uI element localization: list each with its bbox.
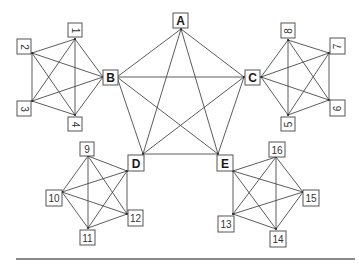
edge-6-5 xyxy=(288,100,329,115)
edge-10-11 xyxy=(62,192,88,228)
edge-9-12 xyxy=(88,156,127,214)
junction-dot xyxy=(232,213,234,215)
edge-11-D xyxy=(88,171,127,228)
node-9: 9 xyxy=(80,142,94,156)
node-5: 5 xyxy=(281,117,295,131)
edge-2-B xyxy=(32,53,103,77)
edge-5-C xyxy=(261,77,288,115)
edge-1-B xyxy=(75,39,103,77)
node-label: 8 xyxy=(283,28,294,34)
node-label: D xyxy=(132,157,141,171)
edge-4-B xyxy=(75,77,103,115)
node-B: B xyxy=(103,70,118,85)
node-15: 15 xyxy=(303,190,319,206)
edge-15-E xyxy=(233,171,303,192)
edge-3-B xyxy=(32,77,103,101)
node-4: 4 xyxy=(68,117,82,131)
edge-15-13 xyxy=(233,192,303,214)
node-label: B xyxy=(106,71,115,85)
node-label: E xyxy=(221,157,229,171)
edge-8-7 xyxy=(288,40,329,53)
edge-1-3 xyxy=(32,39,75,101)
node-A: A xyxy=(173,13,188,28)
node-label: C xyxy=(248,71,257,85)
node-D: D xyxy=(128,155,144,171)
junction-dot xyxy=(287,39,289,41)
node-2: 2 xyxy=(17,39,31,54)
node-1: 1 xyxy=(68,23,82,37)
edge-A-B xyxy=(117,29,181,77)
edge-3-4 xyxy=(32,101,75,115)
node-label: 1 xyxy=(70,28,81,34)
node-6: 6 xyxy=(330,100,345,116)
node-label: 2 xyxy=(19,44,30,50)
junction-dot xyxy=(87,227,89,229)
edge-14-13 xyxy=(233,214,276,229)
node-3: 3 xyxy=(17,101,31,116)
node-label: 5 xyxy=(283,121,294,127)
edge-8-C xyxy=(261,40,288,77)
node-label: 9 xyxy=(84,144,90,155)
edge-16-E xyxy=(233,157,276,171)
junction-dot xyxy=(287,114,289,116)
edge-1-2 xyxy=(32,39,75,53)
node-13: 13 xyxy=(218,216,234,232)
edge-9-D xyxy=(88,156,127,171)
node-C: C xyxy=(245,70,260,85)
node-label: 6 xyxy=(332,105,343,111)
edge-B-E xyxy=(117,77,218,154)
edge-10-D xyxy=(62,171,127,192)
edge-6-C xyxy=(261,77,329,100)
edge-14-E xyxy=(233,171,276,229)
node-label: 11 xyxy=(82,233,93,244)
edge-2-4 xyxy=(32,53,75,115)
node-11: 11 xyxy=(80,230,95,245)
edge-C-D xyxy=(143,77,244,154)
node-10: 10 xyxy=(46,190,62,206)
complete-graph-diagram: ABCDE12345678910111213141516 xyxy=(0,0,359,265)
edge-11-12 xyxy=(88,214,127,228)
node-label: 14 xyxy=(272,234,284,245)
node-12: 12 xyxy=(128,210,143,226)
edge-A-E xyxy=(181,29,218,154)
node-label: 10 xyxy=(48,193,60,204)
edge-7-5 xyxy=(288,53,329,115)
node-16: 16 xyxy=(269,142,285,157)
node-label: 15 xyxy=(305,193,317,204)
edge-9-10 xyxy=(62,156,88,192)
edge-7-C xyxy=(261,53,329,77)
junction-dot xyxy=(74,114,76,116)
node-label: 12 xyxy=(130,213,142,224)
node-E: E xyxy=(217,155,233,171)
node-label: 7 xyxy=(332,43,343,49)
edge-C-E xyxy=(218,77,244,154)
junction-dot xyxy=(74,38,76,40)
edge-15-14 xyxy=(276,192,303,229)
edge-16-15 xyxy=(276,157,303,192)
node-label: 16 xyxy=(271,145,283,156)
edge-A-C xyxy=(181,29,244,77)
node-label: A xyxy=(176,14,185,28)
node-8: 8 xyxy=(281,23,295,38)
node-7: 7 xyxy=(330,38,345,54)
nodes-layer: ABCDE12345678910111213141516 xyxy=(17,13,345,247)
edge-B-D xyxy=(117,77,143,154)
edge-10-12 xyxy=(62,192,127,214)
edge-16-13 xyxy=(233,157,276,214)
node-label: 13 xyxy=(220,219,232,230)
node-14: 14 xyxy=(270,231,286,247)
edge-A-D xyxy=(143,29,181,154)
edge-8-6 xyxy=(288,40,329,100)
node-label: 4 xyxy=(70,122,81,128)
node-label: 3 xyxy=(19,106,30,112)
junction-dot xyxy=(275,228,277,230)
